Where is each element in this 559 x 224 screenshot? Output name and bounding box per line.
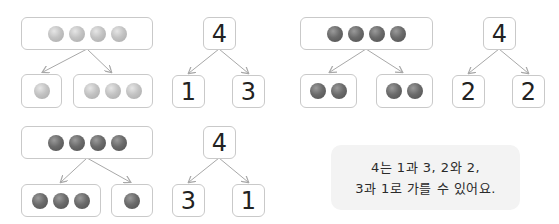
whole-number-box: 4 [203,126,236,159]
ball-icon [32,193,48,209]
part-number-box-left: 3 [172,184,205,217]
ball-icon [74,193,90,209]
ball-icon [105,83,121,99]
arrow-right [219,158,248,182]
whole-balls-box [21,17,153,50]
arrow-right [87,49,111,72]
ball-icon [126,83,142,99]
ball-icon [84,83,100,99]
part-number-box-right: 3 [232,75,265,108]
part-balls-box-right [376,74,433,108]
ball-icon [390,26,406,42]
ball-icon [69,135,85,151]
arrow-right [499,49,528,73]
part-balls-box-right [111,184,153,217]
caption-line-2: 3과 1로 가를 수 있어요. [355,178,496,199]
ball-icon [310,83,326,99]
whole-balls-box [21,126,153,159]
ball-icon [111,26,127,42]
arrow-right [366,49,402,72]
arrow-right [87,158,130,182]
ball-icon [34,83,50,99]
ball-icon [48,26,64,42]
caption-line-1: 4는 1과 3, 2와 2, [371,157,480,178]
ball-icon [327,26,343,42]
caption-box: 4는 1과 3, 2와 2, 3과 1로 가를 수 있어요. [331,145,520,210]
arrow-left [189,158,219,182]
part-number-box-right: 1 [232,184,265,217]
whole-number-box: 4 [483,17,516,50]
ball-icon [369,26,385,42]
ball-icon [348,26,364,42]
ball-icon [48,135,64,151]
part-number-box-left: 1 [172,75,205,108]
part-number-box-right: 2 [512,75,545,108]
ball-icon [90,26,106,42]
ball-icon [386,83,402,99]
part-balls-box-left [300,74,357,108]
ball-icon [90,135,106,151]
arrow-right [219,49,248,73]
ball-icon [124,193,140,209]
part-balls-box-left [21,74,62,108]
ball-icon [111,135,127,151]
whole-balls-box [300,17,433,50]
arrow-left [330,49,366,72]
arrow-left [61,158,87,182]
ball-icon [407,83,423,99]
part-number-box-left: 2 [452,75,485,108]
arrow-left [469,49,499,73]
arrow-left [189,49,219,73]
ball-icon [331,83,347,99]
whole-number-box: 4 [203,17,236,50]
ball-icon [69,26,85,42]
part-balls-box-left [21,184,101,217]
part-balls-box-right [73,74,153,108]
arrow-left [43,49,87,72]
ball-icon [53,193,69,209]
